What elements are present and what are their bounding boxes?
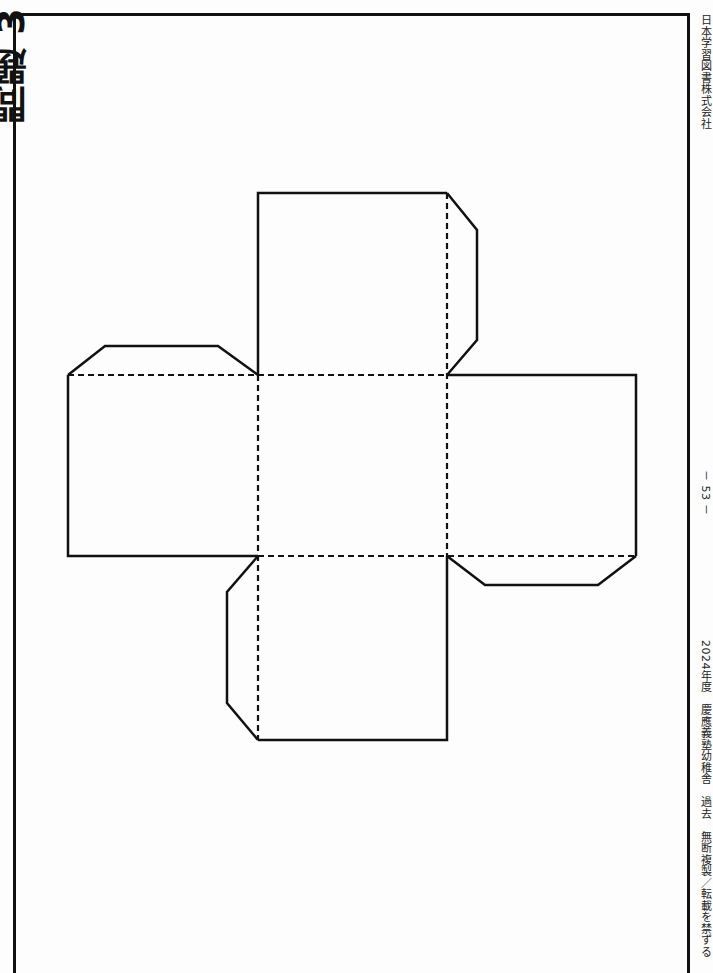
page-number: － 53 － <box>697 470 713 516</box>
publisher-label: 日本学習図書株式会社 <box>697 14 713 129</box>
left-face-outline <box>68 375 258 556</box>
top-tab-outline <box>447 193 477 375</box>
copyright-notice: 2024年度 慶應義塾幼稚舎 過去 無断複製／転載を禁ずる <box>697 640 713 958</box>
bottom-face-outline <box>258 556 447 740</box>
bottom-tab-outline <box>227 556 258 740</box>
left-tab-outline <box>68 346 258 375</box>
right-face-outline <box>447 375 636 556</box>
net-outline <box>258 193 447 375</box>
right-tab-outline <box>447 556 636 585</box>
